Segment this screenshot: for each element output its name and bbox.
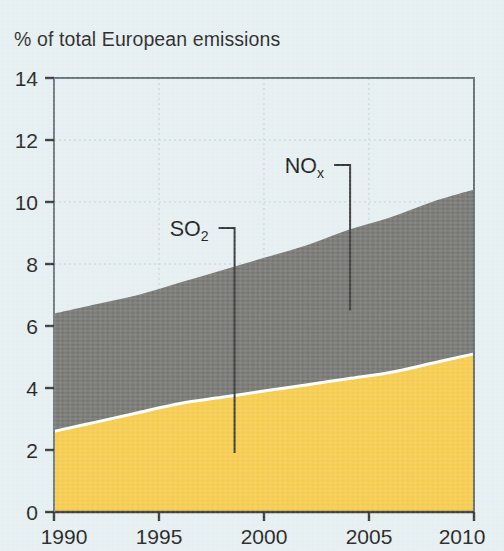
- y-tick-label-8: 8: [26, 253, 38, 276]
- x-tick-label-1990: 1990: [41, 525, 88, 548]
- x-axis-ticks: [54, 512, 474, 521]
- emissions-area-chart: % of total European emissions 024681: [0, 0, 504, 551]
- chart-plot-area: 02468101214 19901995200020052010 SO2 NOx: [0, 0, 504, 551]
- x-axis-tick-labels: 19901995200020052010: [41, 525, 486, 548]
- y-tick-label-2: 2: [26, 439, 38, 462]
- y-tick-label-12: 12: [15, 129, 38, 152]
- y-tick-label-4: 4: [26, 377, 38, 400]
- x-tick-label-2005: 2005: [346, 525, 393, 548]
- x-tick-label-2000: 2000: [241, 525, 288, 548]
- y-tick-label-14: 14: [15, 67, 39, 90]
- y-tick-label-0: 0: [26, 501, 38, 524]
- x-tick-label-2010: 2010: [439, 525, 486, 548]
- print-texture: [54, 78, 474, 512]
- x-tick-label-1995: 1995: [136, 525, 183, 548]
- y-tick-label-6: 6: [26, 315, 38, 338]
- y-tick-label-10: 10: [15, 191, 38, 214]
- y-axis-tick-labels: 02468101214: [15, 67, 39, 524]
- y-axis-ticks: [45, 78, 54, 512]
